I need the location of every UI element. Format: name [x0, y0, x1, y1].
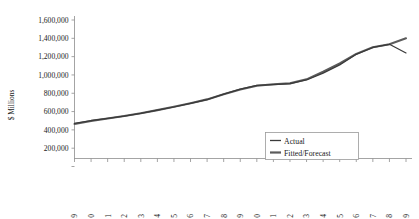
- x-tick-label: 1998: [220, 214, 229, 218]
- y-axis-ticks: 1,600,0001,400,0001,200,0001,000,000800,…: [38, 16, 74, 167]
- x-tick-label: 1990: [87, 214, 96, 218]
- series-line-actual: [75, 44, 407, 123]
- x-tick-label: 2006: [352, 214, 361, 218]
- y-tick-label: 600,000: [44, 107, 69, 116]
- line-chart: $ Millions 1,600,0001,400,0001,200,0001,…: [0, 0, 419, 218]
- x-tick-label: 2003: [302, 214, 311, 218]
- chart-legend: Actual Fitted/Forecast: [266, 133, 359, 160]
- x-tick-label: 1993: [137, 214, 146, 218]
- series-line-fitted-forecast: [75, 38, 407, 124]
- x-tick-label: 1992: [120, 214, 129, 218]
- x-tick-label: 2008: [385, 214, 394, 218]
- x-tick-label: 1999: [236, 214, 245, 218]
- y-tick-label: 800,000: [44, 89, 69, 98]
- x-tick-label: 1989: [70, 214, 79, 218]
- x-tick-label: 2000: [253, 214, 262, 218]
- y-tick-label: 400,000: [44, 126, 69, 135]
- y-tick-label: 200,000: [44, 144, 69, 153]
- x-tick-label: 2004: [319, 214, 328, 218]
- y-tick-label: 1,400,000: [38, 34, 69, 43]
- x-tick-label: 1994: [153, 214, 162, 218]
- y-tick-label: 1,600,000: [38, 16, 69, 25]
- y-tick-label: 1,200,000: [38, 52, 69, 61]
- x-axis-ticks: 1989199019911992199319941995199619971998…: [70, 159, 411, 219]
- y-tick-label: 1,000,000: [38, 71, 69, 80]
- x-tick-label: 1991: [104, 214, 113, 218]
- y-axis-title: $ Millions: [7, 90, 16, 121]
- x-tick-label: 1997: [203, 214, 212, 218]
- x-tick-label: 2005: [336, 214, 345, 218]
- x-tick-label: 2002: [286, 214, 295, 218]
- y-axis-title-group: $ Millions: [7, 90, 16, 121]
- x-tick-label: 1996: [186, 214, 195, 218]
- legend-label-fitted-forecast: Fitted/Forecast: [284, 149, 332, 158]
- x-tick-label: 2007: [369, 214, 378, 218]
- x-tick-label: 2009: [402, 214, 411, 218]
- x-tick-label: 1995: [170, 214, 179, 218]
- x-tick-label: 2001: [269, 214, 278, 218]
- chart-canvas: $ Millions 1,600,0001,400,0001,200,0001,…: [0, 0, 419, 218]
- legend-label-actual: Actual: [284, 137, 306, 146]
